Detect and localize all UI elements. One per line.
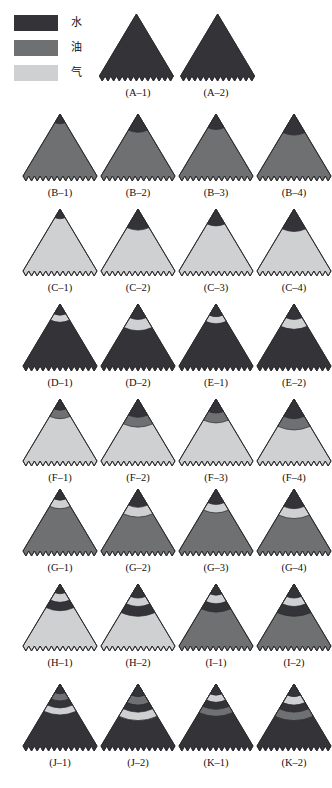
triangle-diagram	[98, 302, 178, 376]
triangle-diagram	[20, 397, 100, 471]
fluid-layer	[55, 684, 65, 694]
triangle-b-1	[20, 112, 100, 186]
triangle-diagram	[176, 682, 256, 756]
legend-label-oil: 油	[71, 40, 82, 56]
legend-item-oil: 油	[14, 39, 94, 57]
fluid-layer	[131, 684, 144, 697]
fluid-layer	[130, 304, 146, 319]
panel-label: (G–2)	[98, 562, 178, 573]
triangle-diagram	[20, 207, 100, 281]
panel-label: (F–2)	[98, 472, 178, 483]
triangle-diagram	[254, 397, 332, 471]
fluid-layer	[128, 489, 147, 507]
panel-k-2: (K–2)	[254, 682, 332, 768]
triangle-diagram	[176, 12, 256, 86]
panel-label: (H–2)	[98, 657, 178, 668]
triangle-f-1	[20, 397, 100, 471]
triangle-i-2	[254, 582, 332, 656]
triangle-j-1	[20, 682, 100, 756]
triangle-diagram	[20, 487, 100, 561]
legend-swatch-oil	[14, 40, 58, 56]
panel-b-2: (B–2)	[98, 112, 178, 198]
fluid-layer	[209, 304, 222, 317]
panel-label: (C–1)	[20, 282, 100, 293]
fluid-layer	[127, 209, 149, 230]
panel-g-3: (G–3)	[176, 487, 256, 573]
legend-item-gas: 气	[14, 64, 94, 82]
panel-label: (B–3)	[176, 187, 256, 198]
triangle-g-1	[20, 487, 100, 561]
panel-e-1: (E–1)	[176, 302, 256, 388]
triangle-a-2	[176, 12, 256, 86]
triangle-b-2	[98, 112, 178, 186]
panel-h-1: (H–1)	[20, 582, 100, 668]
panel-label: (A–2)	[176, 87, 256, 98]
panel-label: (G–4)	[254, 562, 332, 573]
triangle-h-1	[20, 582, 100, 656]
panel-i-1: (I–1)	[176, 582, 256, 668]
fluid-layer	[55, 114, 65, 124]
fluid-layer	[131, 584, 146, 598]
panel-label: (C–2)	[98, 282, 178, 293]
legend-label-gas: 气	[71, 65, 82, 81]
fluid-layer	[287, 584, 302, 598]
panel-label: (F–4)	[254, 472, 332, 483]
triangle-diagram	[254, 302, 332, 376]
panel-label: (E–2)	[254, 377, 332, 388]
triangle-e-2	[254, 302, 332, 376]
panel-e-2: (E–2)	[254, 302, 332, 388]
triangle-diagram	[98, 397, 178, 471]
panel-f-3: (F–3)	[176, 397, 256, 483]
panel-label: (G–1)	[20, 562, 100, 573]
fluid-layer	[286, 304, 302, 319]
triangle-diagram	[98, 112, 178, 186]
legend: 水 油 气	[14, 14, 94, 89]
triangle-diagram	[176, 207, 256, 281]
triangle-a-1	[98, 12, 178, 86]
panel-f-2: (F–2)	[98, 397, 178, 483]
triangle-diagram	[254, 487, 332, 561]
panel-label: (E–1)	[176, 377, 256, 388]
panel-h-2: (H–2)	[98, 582, 178, 668]
triangle-diagram	[20, 112, 100, 186]
panel-d-2: (D–2)	[98, 302, 178, 388]
fluid-layer	[284, 399, 305, 419]
triangle-c-2	[98, 207, 178, 281]
triangle-diagram	[20, 682, 100, 756]
triangle-f-3	[176, 397, 256, 471]
panel-label: (B–2)	[98, 187, 178, 198]
fluid-layer	[282, 209, 306, 232]
triangle-diagram	[176, 302, 256, 376]
panel-label: (I–2)	[254, 657, 332, 668]
fluid-layer	[55, 584, 65, 594]
panel-b-4: (B–4)	[254, 112, 332, 198]
triangle-body	[99, 14, 173, 81]
panel-label: (F–3)	[176, 472, 256, 483]
fluid-layer	[207, 209, 225, 226]
legend-label-water: 水	[71, 15, 82, 31]
fluid-layer	[128, 114, 147, 132]
fluid-layer	[54, 399, 66, 410]
triangle-diagram	[98, 12, 178, 86]
triangle-j-2	[98, 682, 178, 756]
triangle-diagram	[20, 302, 100, 376]
figure-root: 水 油 气 (A–1)(A–2)(B–1)(B–2)(B–3)(B–4)(C–1…	[0, 0, 332, 788]
panel-f-1: (F–1)	[20, 397, 100, 483]
triangle-d-2	[98, 302, 178, 376]
triangle-diagram	[254, 582, 332, 656]
panel-label: (J–1)	[20, 757, 100, 768]
triangle-diagram	[254, 682, 332, 756]
triangle-diagram	[176, 112, 256, 186]
fluid-layer	[55, 209, 65, 219]
fluid-layer	[54, 489, 66, 500]
triangle-diagram	[98, 582, 178, 656]
triangle-diagram	[176, 487, 256, 561]
fluid-layer	[208, 114, 224, 129]
triangle-f-4	[254, 397, 332, 471]
triangle-k-1	[176, 682, 256, 756]
panel-label: (C–4)	[254, 282, 332, 293]
fluid-layer	[283, 114, 305, 135]
triangle-b-3	[176, 112, 256, 186]
panel-c-1: (C–1)	[20, 207, 100, 293]
triangle-c-4	[254, 207, 332, 281]
